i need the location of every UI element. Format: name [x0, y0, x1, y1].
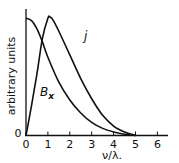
series-label-b: B: [40, 85, 48, 99]
x-tick-label: 0: [23, 138, 30, 151]
x-tick-label: 6: [154, 138, 161, 151]
x-ticks: 0123456: [23, 132, 161, 152]
series-label-b-subscript: x: [47, 91, 55, 101]
y-tick-label-0: 0: [15, 127, 22, 140]
x-tick-label: 2: [66, 138, 73, 151]
x-tick-label: 5: [132, 138, 139, 151]
x-axis-title: ν/λ.: [102, 149, 122, 162]
series-label-bx: Bx: [40, 85, 55, 101]
series-lines: [26, 16, 136, 135]
series-label-j: j: [82, 29, 88, 43]
y-axis-title: arbitrary units: [5, 37, 18, 116]
x-tick-label: 3: [88, 138, 95, 151]
x-tick-label: 1: [44, 138, 51, 151]
series-line-j: [26, 16, 136, 135]
chart: 0123456 arbitrary units 0 ν/λ. j Bx: [0, 0, 179, 163]
